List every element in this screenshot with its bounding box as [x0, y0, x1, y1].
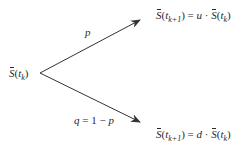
up-node-formula: S(tk+1) = u · S(tk) — [156, 9, 231, 26]
down-probability-label: q = 1 − p — [74, 114, 114, 126]
up-probability-label: p — [85, 26, 91, 38]
root-node-label: S(tk) — [9, 67, 28, 84]
down-node-formula: S(tk+1) = d · S(tk) — [156, 128, 231, 145]
root-symbol: S — [9, 67, 15, 79]
